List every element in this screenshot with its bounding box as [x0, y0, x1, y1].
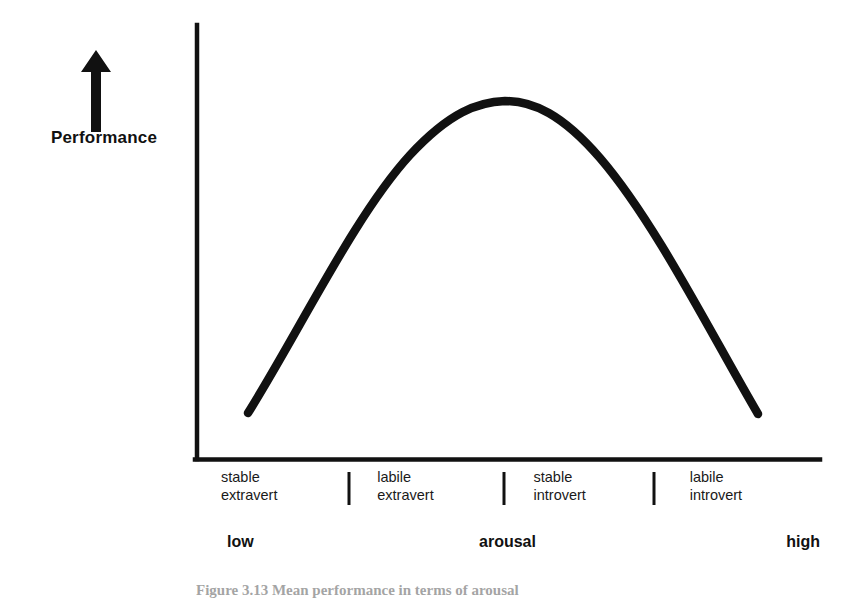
category-line-1: stable — [534, 468, 573, 486]
category-line-1: labile — [377, 468, 411, 486]
category-line-2: extravert — [221, 486, 277, 504]
category-label-stable-introvert: stable introvert — [508, 468, 664, 504]
figure-container: Performance stable extravert labile extr… — [0, 0, 844, 598]
category-line-2: introvert — [534, 486, 586, 504]
performance-curve — [248, 101, 758, 414]
category-label-stable-extravert: stable extravert — [195, 468, 351, 504]
category-label-labile-extravert: labile extravert — [351, 468, 507, 504]
category-line-2: introvert — [690, 486, 742, 504]
x-axis-title: arousal — [195, 533, 820, 551]
x-axis-scale-row: low arousal high — [195, 533, 820, 557]
figure-caption: Figure 3.13 Mean performance in terms of… — [196, 582, 666, 598]
x-axis-high-label: high — [786, 533, 820, 551]
category-label-labile-introvert: labile introvert — [664, 468, 820, 504]
category-line-2: extravert — [377, 486, 433, 504]
category-line-1: stable — [221, 468, 260, 486]
category-line-1: labile — [690, 468, 724, 486]
category-label-row: stable extravert labile extravert stable… — [195, 468, 820, 510]
